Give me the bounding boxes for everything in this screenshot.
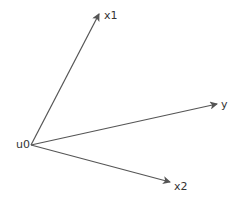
vector-x1-arrow [31,14,99,145]
label-x1: x1 [104,10,118,21]
label-y: y [221,99,228,110]
vector-y-arrow [31,104,217,145]
label-origin-u0: u0 [16,139,30,150]
vector-diagram [0,0,239,204]
label-x2: x2 [174,181,188,192]
vector-x2-arrow [31,145,170,182]
